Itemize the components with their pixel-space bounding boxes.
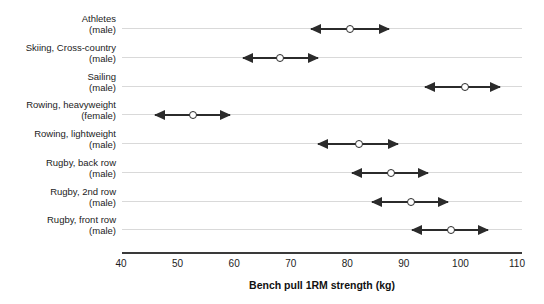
category-label: Rowing, heavyweight(female) xyxy=(0,99,116,121)
mean-marker xyxy=(355,140,363,148)
category-sex-label: (male) xyxy=(0,139,116,150)
arrow-right-icon xyxy=(308,53,319,63)
arrow-left-icon xyxy=(411,225,422,235)
arrow-right-icon xyxy=(220,110,231,120)
category-label: Skiing, Cross-country(male) xyxy=(0,42,116,64)
gridline xyxy=(122,172,522,173)
bench-pull-strength-chart: Athletes(male)Skiing, Cross-country(male… xyxy=(0,0,544,304)
category-group-name: Skiing, Cross-country xyxy=(26,42,116,53)
arrow-right-icon xyxy=(379,24,390,34)
arrow-left-icon xyxy=(351,168,362,178)
x-tick-label: 110 xyxy=(497,258,537,269)
category-sex-label: (male) xyxy=(0,82,116,93)
category-group-name: Sailing xyxy=(87,71,116,82)
arrow-right-icon xyxy=(478,225,489,235)
x-tick-label: 40 xyxy=(101,258,141,269)
mean-marker xyxy=(387,169,395,177)
category-sex-label: (male) xyxy=(0,197,116,208)
category-sex-label: (male) xyxy=(0,168,116,179)
category-group-name: Rugby, 2nd row xyxy=(50,186,116,197)
x-tick-label: 70 xyxy=(271,258,311,269)
arrow-left-icon xyxy=(242,53,253,63)
category-sex-label: (male) xyxy=(0,24,116,35)
x-tick-label: 60 xyxy=(214,258,254,269)
category-label: Rugby, back row(male) xyxy=(0,157,116,179)
mean-marker xyxy=(346,25,354,33)
arrow-right-icon xyxy=(490,82,501,92)
x-axis-line xyxy=(122,252,522,254)
range-interval xyxy=(352,167,428,178)
category-sex-label: (male) xyxy=(0,225,116,236)
range-interval xyxy=(425,81,500,92)
arrow-left-icon xyxy=(317,139,328,149)
arrow-left-icon xyxy=(310,24,321,34)
x-tick-label: 100 xyxy=(440,258,480,269)
category-sex-label: (male) xyxy=(0,53,116,64)
arrow-right-icon xyxy=(418,168,429,178)
category-group-name: Rugby, back row xyxy=(46,157,116,168)
mean-marker xyxy=(447,226,455,234)
x-axis-title: Bench pull 1RM strength (kg) xyxy=(122,279,522,291)
gridline xyxy=(122,201,522,202)
arrow-left-icon xyxy=(371,197,382,207)
category-label: Sailing(male) xyxy=(0,71,116,93)
arrow-left-icon xyxy=(154,110,165,120)
category-label: Rugby, 2nd row(male) xyxy=(0,186,116,208)
category-label: Athletes(male) xyxy=(0,13,116,35)
range-interval xyxy=(372,196,448,207)
range-interval xyxy=(243,52,318,63)
category-group-name: Rugby, front row xyxy=(47,214,116,225)
category-group-name: Athletes xyxy=(82,13,116,24)
arrow-right-icon xyxy=(438,197,449,207)
range-interval xyxy=(412,224,488,235)
category-label: Rugby, front row(male) xyxy=(0,214,116,236)
arrow-right-icon xyxy=(388,139,399,149)
range-interval xyxy=(155,109,230,120)
gridline xyxy=(122,57,522,58)
x-tick-label: 80 xyxy=(327,258,367,269)
category-label: Rowing, lightweight(male) xyxy=(0,128,116,150)
category-group-name: Rowing, heavyweight xyxy=(26,99,116,110)
mean-marker xyxy=(461,83,469,91)
mean-marker xyxy=(276,54,284,62)
range-interval xyxy=(311,23,389,34)
mean-marker xyxy=(189,111,197,119)
x-tick-label: 50 xyxy=(158,258,198,269)
arrow-left-icon xyxy=(424,82,435,92)
mean-marker xyxy=(407,198,415,206)
category-group-name: Rowing, lightweight xyxy=(34,128,116,139)
range-interval xyxy=(318,138,398,149)
category-sex-label: (female) xyxy=(0,110,116,121)
x-tick-label: 90 xyxy=(384,258,424,269)
